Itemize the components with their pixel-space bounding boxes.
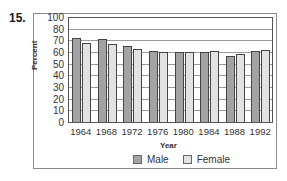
y-tick-label: 30 bbox=[42, 83, 64, 93]
male-swatch-icon bbox=[133, 155, 142, 164]
bar-female-1968 bbox=[108, 44, 117, 122]
x-tick-label: 1976 bbox=[145, 126, 171, 137]
x-tick-label: 1968 bbox=[93, 126, 119, 137]
legend-item-female: Female bbox=[183, 154, 230, 165]
y-tick-label: 0 bbox=[42, 118, 64, 128]
x-tick-label: 1964 bbox=[68, 126, 94, 137]
bar-female-1984 bbox=[210, 51, 219, 122]
bar-female-1980 bbox=[185, 52, 194, 122]
bar-male-1984 bbox=[200, 52, 209, 122]
bar-female-1988 bbox=[236, 54, 245, 122]
x-tick-label: 1980 bbox=[170, 126, 196, 137]
bar-male-1992 bbox=[251, 51, 260, 122]
plot-area bbox=[68, 17, 273, 123]
x-axis-title: Year bbox=[160, 141, 177, 150]
y-tick-label: 70 bbox=[42, 36, 64, 46]
x-tick-label: 1988 bbox=[222, 126, 248, 137]
y-tick-label: 50 bbox=[42, 60, 64, 70]
bar-male-1988 bbox=[226, 56, 235, 123]
x-tick-label: 1972 bbox=[119, 126, 145, 137]
female-swatch-icon bbox=[183, 155, 192, 164]
bar-male-1976 bbox=[149, 51, 158, 122]
y-tick-label: 80 bbox=[42, 25, 64, 35]
bar-male-1980 bbox=[175, 52, 184, 122]
x-tick-label: 1984 bbox=[196, 126, 222, 137]
bar-male-1972 bbox=[123, 46, 132, 122]
y-tick-label: 100 bbox=[42, 13, 64, 23]
bar-female-1992 bbox=[261, 50, 270, 122]
y-axis-title: Percent bbox=[30, 41, 39, 70]
y-tick-label: 60 bbox=[42, 48, 64, 58]
y-tick-label: 20 bbox=[42, 95, 64, 105]
bar-female-1972 bbox=[133, 49, 142, 123]
legend-label-male: Male bbox=[147, 154, 169, 165]
legend-label-female: Female bbox=[197, 154, 230, 165]
legend-item-male: Male bbox=[133, 154, 169, 165]
y-tick-label: 10 bbox=[42, 106, 64, 116]
gridline bbox=[69, 29, 272, 30]
bar-male-1968 bbox=[98, 39, 107, 122]
bar-female-1964 bbox=[82, 43, 91, 122]
bar-male-1964 bbox=[72, 38, 81, 122]
legend: Male Female bbox=[133, 154, 244, 165]
bar-female-1976 bbox=[159, 52, 168, 122]
y-tick-label: 40 bbox=[42, 71, 64, 81]
x-tick-label: 1992 bbox=[247, 126, 273, 137]
question-number: 15. bbox=[9, 11, 26, 25]
